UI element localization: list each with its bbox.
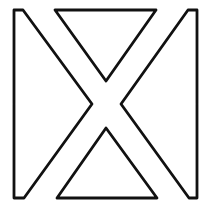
right-shape	[121, 10, 197, 198]
top-triangle	[55, 10, 156, 81]
x-square-diagram	[0, 0, 210, 215]
left-shape	[14, 10, 92, 198]
bottom-triangle	[57, 128, 157, 198]
